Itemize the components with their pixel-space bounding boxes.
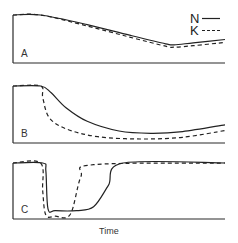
panel-label: C xyxy=(21,204,28,215)
legend: N K xyxy=(190,11,220,38)
panel-c: C xyxy=(13,161,225,219)
chart: ABC N K Time xyxy=(0,0,238,243)
panels: ABC xyxy=(13,14,225,219)
series-k-line xyxy=(13,161,225,218)
panel-b: B xyxy=(13,85,225,143)
panel-label: B xyxy=(21,128,28,139)
x-axis-label: Time xyxy=(99,226,119,236)
legend-label-k: K xyxy=(190,23,199,38)
series-n-line xyxy=(13,86,225,134)
series-n-line xyxy=(13,161,225,212)
panel-label: A xyxy=(21,48,28,59)
